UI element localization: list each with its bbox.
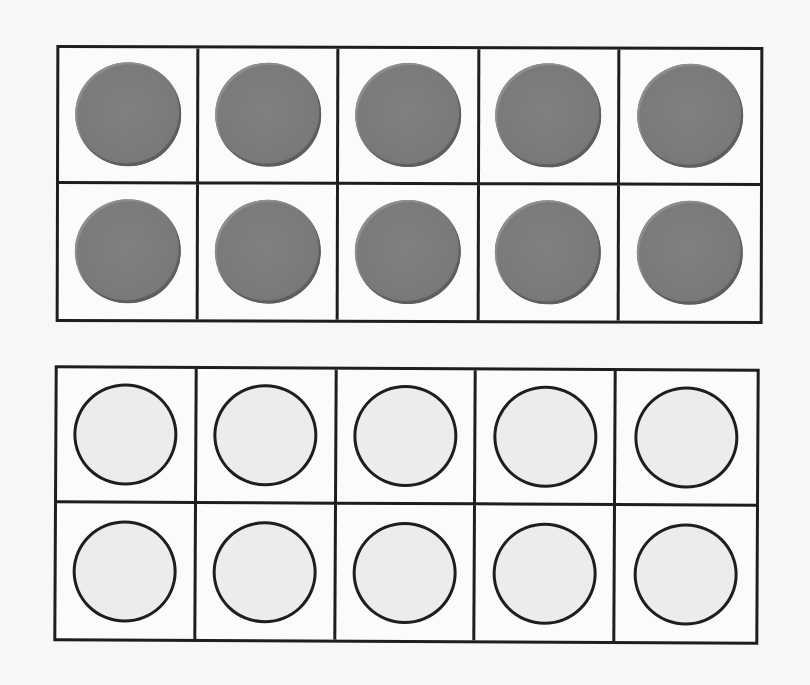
frame-cell [619,185,760,321]
frame-cell [56,503,197,639]
frame-cell [615,506,756,642]
filled-counter-icon [74,199,180,303]
empty-counter-icon [213,384,318,487]
empty-counter-icon [73,520,178,623]
filled-counter-icon [214,200,320,304]
filled-counter-icon [355,63,461,167]
frame-cell [59,184,200,320]
frame-cell [199,48,340,184]
frame-cell [339,184,480,320]
frame-cell [197,369,338,505]
ten-frame-bottom [53,365,759,645]
empty-counter-icon [633,523,738,626]
frame-cell [476,370,617,506]
frame-cell [57,368,198,504]
frame-cell [479,185,620,321]
filled-counter-icon [215,63,321,167]
filled-counter-icon [637,201,743,305]
filled-counter-icon [355,200,461,304]
frame-cell [336,505,477,641]
filled-counter-icon [495,63,601,167]
empty-counter-icon [213,520,318,623]
filled-counter-icon [637,64,743,168]
frame-cell [337,370,478,506]
frame-cell [616,371,757,507]
frame-cell [339,49,480,185]
ten-frame-top [56,45,764,324]
empty-counter-icon [492,522,597,625]
frame-cell [620,50,761,186]
frame-cell [199,184,340,320]
empty-counter-icon [493,385,598,488]
empty-counter-icon [352,521,457,624]
frame-cell [59,48,200,184]
frame-cell [480,49,621,185]
empty-counter-icon [353,385,458,488]
filled-counter-icon [75,62,181,166]
frame-cell [476,505,617,641]
empty-counter-icon [73,383,178,486]
frame-cell [196,504,337,640]
filled-counter-icon [495,200,601,304]
empty-counter-icon [634,386,739,489]
